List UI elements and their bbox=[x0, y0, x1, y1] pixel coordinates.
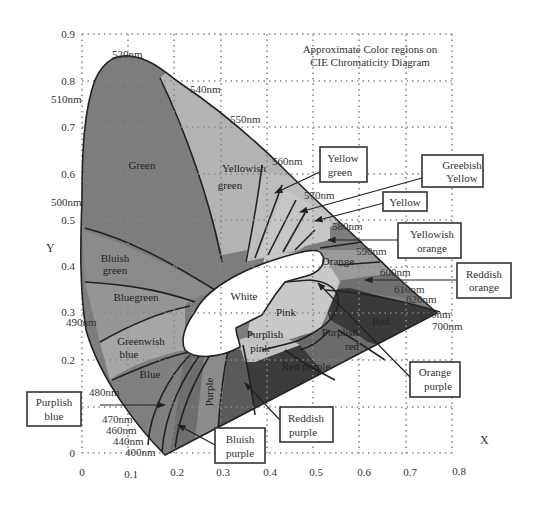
x-axis-label: X bbox=[480, 433, 489, 447]
label-green: Green bbox=[129, 159, 156, 171]
label-red-purple: Red purple bbox=[282, 360, 331, 372]
label-white: White bbox=[231, 290, 258, 302]
svg-text:0: 0 bbox=[70, 447, 76, 459]
svg-text:Reddish: Reddish bbox=[288, 412, 325, 424]
svg-text:Yellow: Yellow bbox=[327, 152, 358, 164]
svg-text:Yellow: Yellow bbox=[389, 196, 420, 208]
svg-text:0.6: 0.6 bbox=[357, 466, 371, 478]
y-axis-label: Y bbox=[46, 241, 55, 255]
svg-text:Greebish: Greebish bbox=[442, 159, 482, 171]
svg-text:purple: purple bbox=[289, 426, 317, 438]
svg-text:0.5: 0.5 bbox=[309, 466, 323, 478]
callout-reddish-purple: Reddish purple bbox=[280, 407, 333, 442]
svg-text:500nm: 500nm bbox=[51, 196, 82, 208]
label-pink: Pink bbox=[276, 306, 297, 318]
svg-text:purple: purple bbox=[226, 447, 254, 459]
cie-chromaticity-diagram: Approximate Color regions on CIE Chromat… bbox=[0, 0, 536, 513]
svg-text:Orange: Orange bbox=[419, 366, 451, 378]
svg-text:pink: pink bbox=[250, 342, 270, 354]
svg-text:600nm: 600nm bbox=[380, 266, 411, 278]
x-tick-labels: 0 0.1 0.2 0.3 0.4 0.5 0.6 0.7 0.8 bbox=[79, 465, 466, 480]
svg-text:green: green bbox=[103, 264, 128, 276]
label-purple: Purple bbox=[203, 378, 215, 407]
title-line-1: Approximate Color regions on bbox=[303, 43, 438, 55]
callout-orange-purple: Orange purple bbox=[410, 362, 460, 397]
label-purplish-pink: Purplish bbox=[247, 328, 284, 340]
svg-text:0.8: 0.8 bbox=[61, 75, 75, 87]
svg-text:0.9: 0.9 bbox=[61, 28, 75, 40]
svg-text:0.3: 0.3 bbox=[216, 466, 230, 478]
svg-text:orange: orange bbox=[469, 281, 499, 293]
svg-text:510nm: 510nm bbox=[51, 93, 82, 105]
label-blue: Blue bbox=[140, 368, 161, 380]
svg-text:0.2: 0.2 bbox=[61, 354, 75, 366]
svg-text:red: red bbox=[345, 340, 360, 352]
svg-text:0.4: 0.4 bbox=[263, 466, 277, 478]
svg-text:0.7: 0.7 bbox=[403, 466, 417, 478]
callout-bluish-purple: Bluish purple bbox=[215, 428, 265, 463]
svg-text:Yellowish: Yellowish bbox=[410, 228, 455, 240]
svg-text:purple: purple bbox=[424, 380, 452, 392]
label-bluegreen: Bluegreen bbox=[113, 291, 159, 303]
svg-text:Yellow: Yellow bbox=[446, 172, 477, 184]
svg-text:480nm: 480nm bbox=[89, 386, 120, 398]
svg-text:Reddish: Reddish bbox=[466, 268, 503, 280]
callout-greenish-yellow: Greebish Yellow bbox=[422, 155, 483, 187]
title-line-2: CIE Chromaticity Diagram bbox=[310, 56, 430, 68]
callout-yellowish-orange: Yellowish orange bbox=[398, 223, 461, 258]
label-greenish-blue: Greenwish bbox=[117, 335, 165, 347]
svg-text:640nm: 640nm bbox=[420, 308, 451, 320]
svg-text:550nm: 550nm bbox=[230, 113, 261, 125]
svg-text:0.4: 0.4 bbox=[61, 260, 75, 272]
svg-text:orange: orange bbox=[417, 242, 447, 254]
svg-text:0.6: 0.6 bbox=[61, 168, 75, 180]
svg-text:490nm: 490nm bbox=[66, 316, 97, 328]
label-yellowish-green: Yellowish bbox=[222, 162, 267, 174]
svg-text:0.7: 0.7 bbox=[61, 121, 75, 133]
svg-text:green: green bbox=[218, 179, 243, 191]
svg-text:0: 0 bbox=[79, 466, 85, 478]
svg-text:0.8: 0.8 bbox=[452, 465, 466, 477]
callout-reddish-orange: Reddish orange bbox=[457, 263, 511, 298]
svg-text:570nm: 570nm bbox=[304, 189, 335, 201]
svg-text:blue: blue bbox=[45, 410, 64, 422]
svg-text:green: green bbox=[328, 166, 353, 178]
label-purplish-red: Purplish bbox=[322, 326, 359, 338]
callout-purplish-blue: Purplish blue bbox=[27, 392, 81, 426]
callout-yellow: Yellow bbox=[383, 192, 427, 211]
svg-text:0.5: 0.5 bbox=[61, 214, 75, 226]
svg-text:590nm: 590nm bbox=[356, 245, 387, 257]
label-bluish-green: Bluish bbox=[101, 252, 130, 264]
svg-text:Purplish: Purplish bbox=[36, 396, 73, 408]
svg-text:580nm: 580nm bbox=[332, 220, 363, 232]
label-orange: Orange bbox=[322, 255, 354, 267]
callout-yellow-green: Yellow green bbox=[320, 147, 367, 182]
svg-text:540nm: 540nm bbox=[190, 83, 221, 95]
svg-text:0.1: 0.1 bbox=[124, 468, 138, 480]
svg-text:560nm: 560nm bbox=[272, 155, 303, 167]
svg-text:blue: blue bbox=[120, 348, 139, 360]
svg-text:520nm: 520nm bbox=[112, 48, 143, 60]
svg-text:400nm: 400nm bbox=[125, 446, 156, 458]
svg-text:Bluish: Bluish bbox=[226, 433, 255, 445]
label-red: Red bbox=[372, 315, 390, 327]
svg-text:0.2: 0.2 bbox=[170, 466, 184, 478]
svg-text:700nm: 700nm bbox=[432, 320, 463, 332]
svg-text:620nm: 620nm bbox=[406, 293, 437, 305]
